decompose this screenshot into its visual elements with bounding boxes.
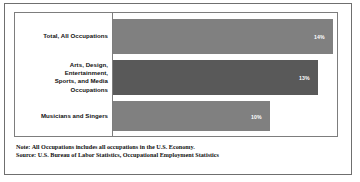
bar-value-total-all-occupations: 14% (314, 34, 325, 40)
bar-arts-design-entertainment (113, 60, 318, 95)
chart-figure: Total, All Occupations 14% Arts, Design,… (4, 3, 352, 175)
category-label-musicians-and-singers: Musicians and Singers (16, 112, 108, 120)
category-label-line: Arts, Design, (16, 61, 108, 69)
bar-value-arts-design-entertainment: 13% (299, 75, 310, 81)
category-label-line: Entertainment, (16, 69, 108, 77)
category-label-line: Musicians and Singers (41, 112, 108, 119)
footer-source-line: Source: U.S. Bureau of Labor Statistics,… (16, 151, 336, 159)
bar-row: Musicians and Singers 10% (14, 101, 338, 131)
bar-musicians-and-singers (113, 101, 270, 131)
bar-total-all-occupations (113, 19, 333, 54)
bar-row: Arts, Design, Entertainment, Sports, and… (14, 60, 338, 95)
category-label-line: Sports, and Media (16, 77, 108, 85)
category-label-line: Occupations (16, 86, 108, 94)
bar-value-musicians-and-singers: 10% (251, 114, 262, 120)
bar-row: Total, All Occupations 14% (14, 19, 338, 54)
category-label-total-all-occupations: Total, All Occupations (16, 32, 108, 40)
category-label-arts-design-entertainment: Arts, Design, Entertainment, Sports, and… (16, 61, 108, 94)
footer-note-line: Note: All Occupations includes all occup… (16, 143, 336, 151)
category-label-line: Total, All Occupations (43, 32, 108, 39)
footer-note: Note: All Occupations includes all occup… (16, 143, 336, 159)
chart-plot-area: Total, All Occupations 14% Arts, Design,… (14, 12, 338, 137)
